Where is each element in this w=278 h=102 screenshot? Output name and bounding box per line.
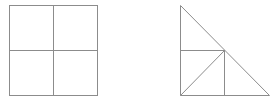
triangle-figure [181,6,270,96]
triangle-diagonal-segment [181,51,225,96]
square-figure [10,6,98,96]
diagram-canvas [0,0,278,102]
